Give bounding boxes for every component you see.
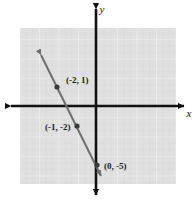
coordinate-plane-figure: y x (-2, 1) (-1, -2) (0, -5) <box>0 0 195 201</box>
data-point <box>94 162 99 167</box>
data-point <box>54 84 59 89</box>
graph-canvas: y x (-2, 1) (-1, -2) (0, -5) <box>0 0 195 201</box>
y-axis-label: y <box>99 3 105 15</box>
x-axis-label: x <box>186 107 192 119</box>
data-point <box>74 123 79 128</box>
point-label-2: (-1, -2) <box>45 122 71 132</box>
point-label-1: (-2, 1) <box>66 75 89 85</box>
point-label-3: (0, -5) <box>104 161 127 171</box>
